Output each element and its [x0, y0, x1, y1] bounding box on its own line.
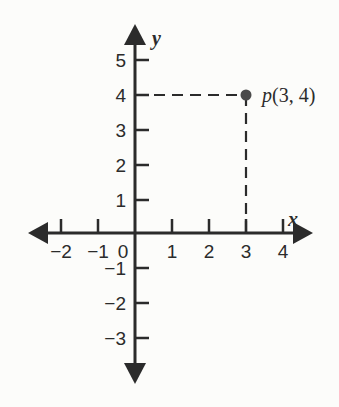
x-axis-ticks: [61, 219, 283, 233]
x-tick-label-2: 2: [199, 242, 219, 261]
data-point-p: [241, 90, 252, 101]
point-label-p: p(3, 4): [262, 85, 315, 105]
x-tick-label-4: 4: [273, 242, 293, 261]
y-tick-label-4: 4: [104, 86, 126, 105]
x-tick-label--2: −2: [46, 242, 76, 261]
x-tick-label-3: 3: [236, 242, 256, 261]
y-tick-label--2: −2: [92, 294, 126, 313]
y-tick-label-2: 2: [104, 156, 126, 175]
x-tick-label-1: 1: [162, 242, 182, 261]
coordinate-plane-svg: [0, 0, 339, 407]
y-axis-top-arrow-icon: [124, 24, 146, 45]
y-tick-label-1: 1: [104, 191, 126, 210]
y-tick-label--3: −3: [92, 329, 126, 348]
point-label-coords: (3, 4): [272, 84, 315, 106]
y-tick-label-5: 5: [104, 51, 126, 70]
y-axis-bottom-arrow-icon: [124, 363, 146, 384]
y-tick-label-3: 3: [104, 121, 126, 140]
y-axis-ticks: [135, 60, 149, 338]
y-tick-label--1: −1: [92, 259, 126, 278]
coordinate-plane-figure: −2 −1 1 2 3 4 0 5 4 3 2 1 −1 −2 −3 y x p…: [0, 0, 339, 407]
x-axis-label: x: [288, 209, 298, 229]
y-axis-label: y: [152, 28, 161, 48]
point-label-name: p: [262, 84, 272, 106]
x-axis-left-arrow-icon: [28, 222, 48, 244]
